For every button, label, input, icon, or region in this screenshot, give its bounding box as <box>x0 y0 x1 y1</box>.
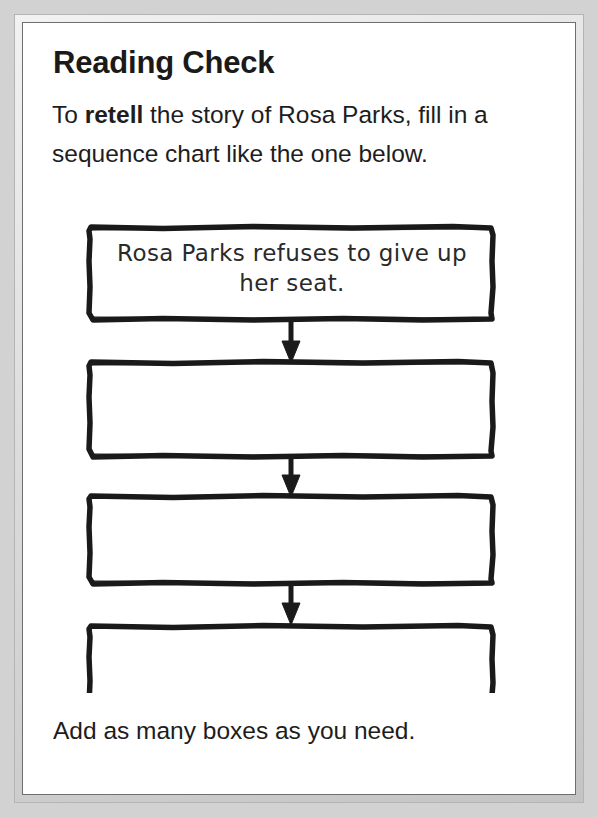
chart-arrow-2 <box>282 456 300 497</box>
chart-arrow-1 <box>282 319 300 363</box>
page-title: Reading Check <box>53 45 274 81</box>
footer-note: Add as many boxes as you need. <box>53 717 415 745</box>
chart-box-4[interactable] <box>89 626 493 694</box>
intro-paragraph: To retell the story of Rosa Parks, fill … <box>52 95 547 173</box>
intro-bold-term: retell <box>85 101 144 128</box>
chart-box-3[interactable] <box>89 496 493 585</box>
chart-box-2[interactable] <box>89 362 493 458</box>
worksheet-sheet: Reading Check To retell the story of Ros… <box>23 23 575 794</box>
intro-prefix: To <box>52 101 85 128</box>
sequence-chart: Rosa Parks refuses to give up her seat. <box>23 183 575 693</box>
chart-box-1-label: Rosa Parks refuses to give up her seat. <box>97 238 487 298</box>
chart-arrow-3 <box>282 583 300 625</box>
